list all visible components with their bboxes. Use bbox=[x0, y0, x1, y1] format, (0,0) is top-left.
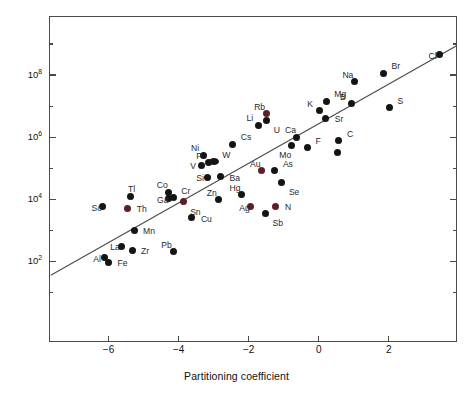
y-tick-major-right bbox=[450, 137, 457, 138]
x-tick-label: 0 bbox=[304, 344, 334, 355]
y-tick-minor bbox=[49, 168, 53, 169]
y-tick-label: 102 bbox=[2, 254, 42, 266]
point-label-li: Li bbox=[246, 113, 253, 123]
point-label-tl: Tl bbox=[128, 184, 135, 194]
x-tick bbox=[248, 336, 249, 342]
point-label-ga: Ga bbox=[157, 195, 168, 205]
point-label-la: La bbox=[110, 242, 120, 252]
point-label-al: Al bbox=[93, 254, 101, 264]
point-label-se: Se bbox=[289, 187, 300, 197]
x-tick bbox=[318, 336, 319, 342]
y-tick-major bbox=[49, 137, 56, 138]
figure-scatter-residence-time: Mean residence time (years) 102104106108… bbox=[0, 0, 473, 395]
data-point-u bbox=[263, 117, 270, 124]
point-label-na: Na bbox=[342, 70, 353, 80]
point-label-hg: Hg bbox=[230, 183, 241, 193]
data-point-br bbox=[380, 70, 387, 77]
point-label-sr: Sr bbox=[335, 114, 344, 124]
y-tick-major-right bbox=[450, 199, 457, 200]
y-tick-label: 106 bbox=[2, 130, 42, 142]
data-point-sb bbox=[262, 210, 269, 217]
point-label-u: U bbox=[274, 125, 280, 135]
point-label-ag: Ag bbox=[239, 203, 250, 213]
data-point-mo bbox=[288, 142, 295, 149]
data-point-mn bbox=[131, 227, 138, 234]
data-point-fe bbox=[105, 259, 112, 266]
y-tick-major bbox=[49, 74, 56, 75]
y-tick-minor bbox=[49, 292, 53, 293]
data-point-cr bbox=[170, 194, 177, 201]
point-label-ba: Ba bbox=[230, 173, 241, 183]
y-tick-major-right bbox=[450, 74, 457, 75]
point-label-co: Co bbox=[157, 180, 168, 190]
data-point-sn bbox=[180, 198, 187, 205]
y-tick-label: 104 bbox=[2, 192, 42, 204]
point-label-au: Au bbox=[250, 159, 261, 169]
point-label-cl: Cl bbox=[428, 51, 436, 61]
point-label-rb: Rb bbox=[254, 102, 265, 112]
data-point-s bbox=[386, 104, 393, 111]
point-label-mo: Mo bbox=[279, 150, 291, 160]
data-point-zr bbox=[129, 247, 136, 254]
y-tick-major bbox=[49, 261, 56, 262]
point-label-th: Th bbox=[137, 204, 147, 214]
point-label-n: N bbox=[285, 202, 291, 212]
point-label-si: Si bbox=[196, 173, 204, 183]
x-tick bbox=[388, 336, 389, 342]
x-tick-label: −4 bbox=[164, 344, 194, 355]
y-tick-minor-right bbox=[453, 292, 457, 293]
x-tick-label: −6 bbox=[94, 344, 124, 355]
data-point-n bbox=[272, 203, 279, 210]
point-label-k: K bbox=[307, 99, 313, 109]
point-label-cu: Cu bbox=[201, 214, 212, 224]
x-tick bbox=[108, 336, 109, 342]
point-label-sb: Sb bbox=[272, 218, 283, 228]
x-tick-label: 2 bbox=[374, 344, 404, 355]
y-tick-major bbox=[49, 199, 56, 200]
point-label-br: Br bbox=[391, 61, 400, 71]
point-label-mn: Mn bbox=[143, 226, 155, 236]
data-point-mg bbox=[323, 98, 330, 105]
point-label-sc: Sc bbox=[92, 203, 102, 213]
y-tick-minor-right bbox=[453, 168, 457, 169]
point-label-cs: Cs bbox=[241, 132, 252, 142]
point-label-f: F bbox=[315, 136, 320, 146]
point-label-ca: Ca bbox=[285, 125, 296, 135]
point-label-w: W bbox=[222, 150, 230, 160]
point-label-c: C bbox=[347, 129, 353, 139]
point-label-v: V bbox=[190, 161, 196, 171]
data-point-k bbox=[316, 107, 323, 114]
point-label-b: B bbox=[340, 92, 346, 102]
y-tick-minor bbox=[49, 230, 53, 231]
point-label-zn: Zn bbox=[207, 188, 217, 198]
y-tick-major-right bbox=[450, 261, 457, 262]
data-point-li bbox=[255, 122, 262, 129]
y-tick-minor bbox=[49, 43, 53, 44]
point-label-fe: Fe bbox=[118, 258, 128, 268]
y-tick-minor-right bbox=[453, 106, 457, 107]
y-tick-minor-right bbox=[453, 43, 457, 44]
point-label-s: S bbox=[397, 96, 403, 106]
point-label-p: P bbox=[196, 151, 202, 161]
x-tick bbox=[178, 336, 179, 342]
data-point-si bbox=[204, 174, 211, 181]
point-label-zr: Zr bbox=[141, 246, 149, 256]
data-point-v bbox=[198, 162, 205, 169]
point-label-cr: Cr bbox=[181, 186, 190, 196]
x-tick-label: −2 bbox=[234, 344, 264, 355]
point-label-pb: Pb bbox=[161, 240, 172, 250]
y-tick-minor bbox=[49, 106, 53, 107]
y-tick-minor-right bbox=[453, 230, 457, 231]
x-axis-label: Partitioning coefficient bbox=[0, 370, 473, 382]
y-tick-label: 108 bbox=[2, 68, 42, 80]
data-point-se bbox=[278, 179, 285, 186]
